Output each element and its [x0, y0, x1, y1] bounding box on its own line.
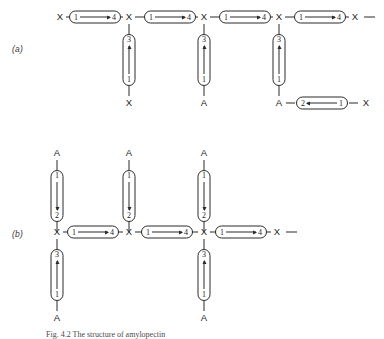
- arrow-left-icon: [307, 103, 337, 104]
- link-from-label: 3: [202, 251, 206, 259]
- bond-b-ubr3-bot: [204, 222, 205, 232]
- bond-a-br3-top: [279, 24, 280, 34]
- arrow-up-icon: [129, 46, 130, 74]
- bond-a-trailing: [364, 17, 375, 18]
- bond-a-br2-bot: [204, 86, 205, 96]
- branch-capsule-b-down-1: 3 1: [51, 249, 64, 301]
- arrow-right-icon: [155, 17, 185, 18]
- bond-b-ubr2-top: [129, 160, 130, 170]
- side-chain-capsule-a: 2 1: [296, 97, 348, 110]
- atom-a-node-4: X: [276, 12, 282, 22]
- atom-a-node-2: X: [126, 12, 132, 22]
- atom-a-branch-3-terminal: A: [276, 98, 282, 108]
- panel-label-b: (b): [12, 229, 23, 239]
- link-from-label: 1: [224, 13, 228, 21]
- bond-a-side-2: [349, 103, 358, 104]
- atom-b-down-branch-1-terminal: A: [54, 313, 60, 323]
- arrow-right-icon: [226, 232, 256, 233]
- atom-b-up-branch-3-terminal: A: [201, 148, 207, 158]
- link-from-label: 1: [146, 228, 150, 236]
- atom-a-side-chain-terminal: X: [363, 98, 369, 108]
- arrow-right-icon: [80, 17, 110, 18]
- branch-capsule-b-up-2: 1 2: [123, 170, 136, 222]
- link-from-label: 1: [299, 13, 303, 21]
- bond-a-5: [210, 17, 219, 18]
- link-to-label: 2: [202, 212, 206, 220]
- link-to-label: 4: [337, 13, 341, 21]
- arrow-right-icon: [152, 232, 182, 233]
- atom-a-node-3: X: [201, 12, 207, 22]
- bond-a-side-1: [286, 103, 295, 104]
- branch-capsule-b-down-2: 3 1: [198, 249, 211, 301]
- link-to-label: 1: [202, 291, 206, 299]
- arrow-up-icon: [204, 261, 205, 289]
- bond-a-br1-top: [129, 24, 130, 34]
- arrow-right-icon: [230, 17, 260, 18]
- bond-b-ubr1-bot: [57, 222, 58, 232]
- link-from-label: 1: [74, 13, 78, 21]
- bond-b-dbr1-top: [57, 239, 58, 249]
- atom-b-up-branch-2-terminal: A: [126, 148, 132, 158]
- bond-a-br2-top: [204, 24, 205, 34]
- link-from-label: 3: [202, 36, 206, 44]
- arrow-down-icon: [129, 182, 130, 210]
- link-to-label: 1: [339, 99, 343, 107]
- link-capsule-b-1: 1 4: [67, 226, 119, 239]
- bond-a-7: [285, 17, 294, 18]
- branch-capsule-a-3: 3 1: [273, 34, 286, 86]
- arrow-right-icon: [78, 232, 108, 233]
- bond-b-dbr1-bot: [57, 301, 58, 311]
- link-to-label: 4: [184, 228, 188, 236]
- bond-b-dbr2-bot: [204, 301, 205, 311]
- link-to-label: 1: [127, 76, 131, 84]
- figure-caption: Fig. 4.2 The structure of amylopectin: [46, 330, 165, 339]
- branch-capsule-b-up-3: 1 2: [198, 170, 211, 222]
- link-from-label: 2: [301, 99, 305, 107]
- link-from-label: 3: [55, 251, 59, 259]
- atom-a-branch-2-terminal: A: [201, 98, 207, 108]
- arrow-right-icon: [305, 17, 335, 18]
- link-capsule-a-4: 1 4: [294, 11, 346, 24]
- link-to-label: 4: [262, 13, 266, 21]
- arrow-down-icon: [57, 182, 58, 210]
- link-from-label: 1: [72, 228, 76, 236]
- branch-capsule-a-2: 3 1: [198, 34, 211, 86]
- link-from-label: 3: [277, 36, 281, 44]
- atom-b-node-4: X: [274, 227, 280, 237]
- link-to-label: 4: [187, 13, 191, 21]
- branch-capsule-a-1: 3 1: [123, 34, 136, 86]
- bond-a-br3-bot: [279, 86, 280, 96]
- bond-b-ubr2-bot: [129, 222, 130, 232]
- link-from-label: 1: [55, 172, 59, 180]
- link-to-label: 4: [258, 228, 262, 236]
- branch-capsule-b-up-1: 1 2: [51, 170, 64, 222]
- link-to-label: 4: [110, 228, 114, 236]
- link-to-label: 1: [277, 76, 281, 84]
- link-to-label: 4: [112, 13, 116, 21]
- arrow-down-icon: [204, 182, 205, 210]
- link-capsule-b-2: 1 4: [141, 226, 193, 239]
- atom-a-node-5: X: [352, 12, 358, 22]
- panel-label-a: (a): [12, 44, 23, 54]
- link-to-label: 2: [127, 212, 131, 220]
- link-to-label: 1: [202, 76, 206, 84]
- atom-a-node-1: X: [57, 12, 63, 22]
- link-from-label: 1: [127, 172, 131, 180]
- link-capsule-a-1: 1 4: [69, 11, 121, 24]
- link-capsule-a-2: 1 4: [144, 11, 196, 24]
- link-from-label: 1: [149, 13, 153, 21]
- link-to-label: 2: [55, 212, 59, 220]
- link-capsule-a-3: 1 4: [219, 11, 271, 24]
- bond-b-ubr1-top: [57, 160, 58, 170]
- bond-b-trailing: [286, 232, 297, 233]
- bond-b-ubr3-top: [204, 160, 205, 170]
- bond-a-3: [135, 17, 144, 18]
- link-from-label: 1: [202, 172, 206, 180]
- link-from-label: 1: [220, 228, 224, 236]
- atom-b-up-branch-1-terminal: A: [54, 148, 60, 158]
- arrow-up-icon: [57, 261, 58, 289]
- atom-a-branch-1-terminal: X: [126, 98, 132, 108]
- arrow-up-icon: [204, 46, 205, 74]
- atom-b-down-branch-2-terminal: A: [201, 313, 207, 323]
